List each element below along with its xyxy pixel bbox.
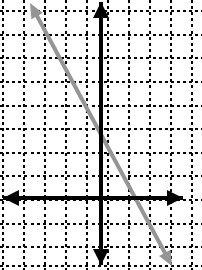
coordinate-plane-figure xyxy=(0,0,202,270)
coordinate-plane-svg xyxy=(0,0,202,270)
